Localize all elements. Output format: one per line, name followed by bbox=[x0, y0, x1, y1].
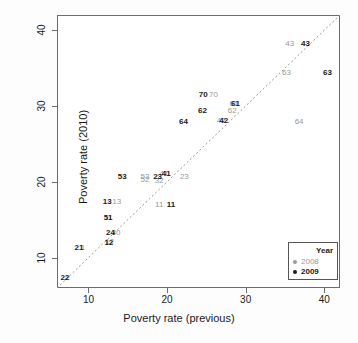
x-axis-title: Poverty rate (previous) bbox=[0, 312, 358, 324]
x-tick-label: 30 bbox=[240, 294, 251, 305]
data-point-label: 53 bbox=[118, 173, 127, 181]
data-point-label: 24 bbox=[106, 229, 115, 237]
data-point-label: 53 bbox=[141, 173, 150, 181]
legend-entries: 20082009 bbox=[293, 257, 333, 277]
data-point-label: 64 bbox=[295, 118, 304, 126]
legend-marker-dot-icon bbox=[293, 270, 297, 274]
data-point-label: 12 bbox=[104, 239, 113, 247]
data-point-label: 51 bbox=[104, 214, 113, 222]
data-point-label: 41 bbox=[162, 170, 171, 178]
legend-entry: 2008 bbox=[293, 257, 333, 267]
legend-entry: 2009 bbox=[293, 267, 333, 277]
x-tick-mark bbox=[324, 288, 325, 293]
data-point-label: 43 bbox=[285, 40, 294, 48]
data-point-label: 64 bbox=[179, 118, 188, 126]
x-tick-mark bbox=[246, 288, 247, 293]
y-tick-label: 30 bbox=[36, 100, 47, 111]
legend-title: Year bbox=[293, 246, 333, 255]
data-point-label: 11 bbox=[155, 201, 163, 209]
data-point-label: 43 bbox=[301, 40, 310, 48]
legend-entry-label: 2009 bbox=[301, 268, 319, 276]
data-point-label: 13 bbox=[103, 198, 112, 206]
x-tick-label: 20 bbox=[161, 294, 172, 305]
legend: Year 20082009 bbox=[288, 242, 338, 280]
data-point-label: 42 bbox=[219, 117, 228, 125]
data-point-label: 70 bbox=[199, 91, 208, 99]
scatter-plot-screenshot: 10203040 10203040 2112301113525332412311… bbox=[0, 0, 358, 343]
data-point-label: 23 bbox=[153, 173, 162, 181]
data-point-label: 13 bbox=[112, 198, 121, 206]
data-point-label: 70 bbox=[209, 91, 218, 99]
data-point-label: 62 bbox=[228, 107, 237, 115]
data-point-label: 22 bbox=[60, 274, 69, 282]
x-tick-label: 40 bbox=[319, 294, 330, 305]
legend-entry-label: 2008 bbox=[301, 258, 319, 266]
data-point-label: 63 bbox=[282, 69, 291, 77]
data-point-label: 61 bbox=[231, 100, 240, 108]
y-axis-title: Poverty rate (2010) bbox=[77, 17, 89, 297]
data-point-label: 62 bbox=[198, 107, 207, 115]
x-tick-mark bbox=[167, 288, 168, 293]
data-point-label: 23 bbox=[180, 173, 189, 181]
y-tick-label: 10 bbox=[36, 252, 47, 263]
legend-marker-dot-icon bbox=[293, 260, 297, 264]
data-point-label: 11 bbox=[167, 201, 175, 209]
y-tick-label: 20 bbox=[36, 176, 47, 187]
data-point-label: 63 bbox=[323, 69, 332, 77]
y-tick-label: 40 bbox=[36, 25, 47, 36]
